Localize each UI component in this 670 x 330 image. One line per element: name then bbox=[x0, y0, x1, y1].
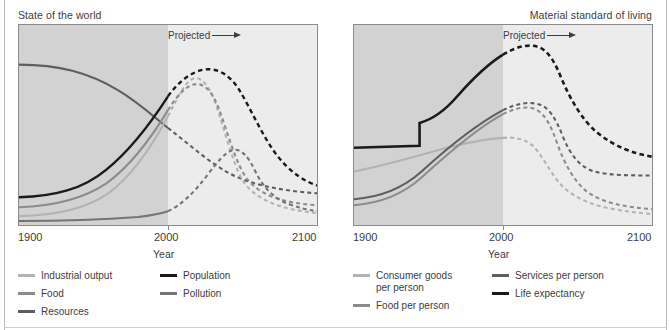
xtick-label-2000-right: 2000 bbox=[489, 231, 513, 243]
legend-item-life-expectancy: Life expectancy bbox=[492, 288, 604, 300]
xtick-label-1900-right: 1900 bbox=[353, 231, 377, 243]
series-pollution-dashed bbox=[168, 150, 317, 211]
projected-label-right: Projected bbox=[503, 30, 545, 41]
legend-item-resources: Resources bbox=[18, 306, 112, 318]
projected-annotation-right: Projected bbox=[503, 30, 577, 41]
legend-swatch-icon-food-per-person bbox=[353, 304, 370, 307]
legend-swatch-icon-life-expectancy bbox=[492, 292, 509, 295]
legend-right-column-2: Services per person Life expectancy bbox=[492, 270, 604, 306]
panel-material-standard-of-living: Material standard of living Projected bbox=[335, 0, 670, 330]
legend-item-industrial-output: Industrial output bbox=[18, 270, 112, 282]
xtick-label-1900-left: 1900 bbox=[18, 231, 42, 243]
legend-label-industrial-output: Industrial output bbox=[41, 270, 112, 282]
legend-label-pollution: Pollution bbox=[183, 288, 221, 300]
legend-label-population: Population bbox=[183, 270, 230, 282]
legend-swatch-icon-consumer-goods bbox=[353, 274, 370, 277]
projected-arrow-icon-left bbox=[212, 32, 242, 40]
xaxis-title-left: Year bbox=[153, 248, 174, 260]
projected-annotation-left: Projected bbox=[168, 30, 242, 41]
xtick-label-2100-left: 2100 bbox=[292, 231, 316, 243]
series-resources-solid bbox=[19, 65, 168, 128]
legend-swatch-icon-population bbox=[160, 274, 177, 277]
legend-item-pollution: Pollution bbox=[160, 288, 230, 300]
plot-area-left bbox=[18, 24, 318, 226]
series-population-dashed bbox=[168, 69, 317, 185]
legend-left-column-1: Industrial output Food Resources bbox=[18, 270, 112, 324]
legend-item-services: Services per person bbox=[492, 270, 604, 282]
legend-item-food: Food bbox=[18, 288, 112, 300]
legend-swatch-icon-services bbox=[492, 274, 509, 277]
xaxis-title-right: Year bbox=[488, 248, 509, 260]
legend-swatch-icon-food bbox=[18, 292, 35, 295]
legend-item-consumer-goods: Consumer goods per person bbox=[353, 270, 473, 294]
legend-item-food-per-person: Food per person bbox=[353, 300, 473, 312]
xtick-2000-left bbox=[168, 226, 169, 230]
series-canvas-right bbox=[354, 25, 652, 225]
series-industrial-output-solid bbox=[19, 116, 168, 216]
projected-arrow-icon-right bbox=[547, 32, 577, 40]
series-industrial-output-dashed bbox=[168, 78, 317, 213]
legend-label-life-expectancy: Life expectancy bbox=[515, 288, 585, 300]
series-population-solid bbox=[19, 96, 168, 197]
series-pollution-solid bbox=[19, 211, 168, 221]
legend-right-column-1: Consumer goods per person Food per perso… bbox=[353, 270, 473, 318]
series-services-solid bbox=[354, 110, 503, 199]
series-resources-dashed bbox=[168, 128, 317, 193]
series-canvas-left bbox=[19, 25, 317, 225]
series-food-solid bbox=[19, 110, 168, 207]
legend-label-services: Services per person bbox=[515, 270, 604, 282]
legend-left-column-2: Population Pollution bbox=[160, 270, 230, 306]
xtick-label-2000-left: 2000 bbox=[154, 231, 178, 243]
projected-label-left: Projected bbox=[168, 30, 210, 41]
plot-area-right bbox=[353, 24, 653, 226]
legend-swatch-icon-pollution bbox=[160, 292, 177, 295]
series-consumer-goods-dashed bbox=[503, 138, 652, 214]
series-services-dashed bbox=[503, 103, 652, 175]
series-life-expectancy-solid bbox=[354, 55, 503, 148]
series-food-per-person-dashed bbox=[503, 108, 652, 210]
legend-item-population: Population bbox=[160, 270, 230, 282]
series-food-dashed bbox=[168, 84, 317, 205]
panel-title-right: Material standard of living bbox=[530, 9, 652, 21]
series-food-per-person-solid bbox=[354, 114, 503, 205]
legend-swatch-icon-resources bbox=[18, 310, 35, 313]
panel-state-of-the-world: State of the world Pr bbox=[0, 0, 335, 330]
panel-title-left: State of the world bbox=[18, 9, 102, 21]
legend-label-resources: Resources bbox=[41, 306, 89, 318]
legend-label-food-per-person: Food per person bbox=[376, 300, 449, 312]
xtick-label-2100-right: 2100 bbox=[627, 231, 651, 243]
xtick-2000-right bbox=[503, 226, 504, 230]
figure-root: State of the world Pr bbox=[0, 0, 670, 330]
legend-label-food: Food bbox=[41, 288, 64, 300]
legend-swatch-icon-industrial-output bbox=[18, 274, 35, 277]
legend-label-consumer-goods: Consumer goods per person bbox=[376, 270, 468, 294]
